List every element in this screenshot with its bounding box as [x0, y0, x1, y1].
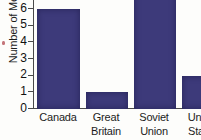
x-label-great-britain-line-1: Great: [81, 111, 131, 125]
x-label-soviet-union-line-2: Union: [130, 125, 178, 139]
y-tick-mark-0: [28, 108, 33, 109]
y-tick-mark-2: [28, 75, 33, 76]
bar-series: [34, 0, 201, 109]
y-tick-label-3: 3: [13, 52, 27, 64]
y-axis-tick-labels: 6 5 4 3 2 1 0: [13, 0, 27, 109]
x-label-soviet-union-line-1: Soviet: [130, 111, 178, 125]
y-tick-label-0: 0: [13, 102, 27, 114]
x-label-canada-line-1: Canada: [31, 111, 85, 125]
y-tick-mark-1: [28, 91, 33, 92]
x-label-soviet-union: Soviet Union: [130, 111, 178, 138]
x-axis-category-labels: Canada Great Britain Soviet Union United…: [33, 111, 201, 140]
y-tick-label-1: 1: [13, 85, 27, 97]
x-label-united-states: United States: [177, 111, 201, 138]
x-label-united-states-line-2: States: [177, 125, 201, 139]
y-tick-mark-6: [28, 8, 33, 9]
x-label-united-states-line-1: United: [177, 111, 201, 125]
x-label-great-britain: Great Britain: [81, 111, 131, 138]
scan-artifact-speck: [2, 41, 5, 45]
x-label-canada: Canada: [31, 111, 85, 125]
bar-canada: [37, 9, 80, 109]
y-tick-label-6: 6: [13, 2, 27, 14]
bar-united-states: [182, 76, 201, 109]
y-tick-label-5: 5: [13, 18, 27, 30]
y-tick-label-4: 4: [13, 35, 27, 47]
plot-area: [33, 0, 201, 109]
bar-great-britain: [86, 92, 128, 109]
bar-chart-figure: Number of Medals 6 5 4 3 2 1 0 Canada Gr: [0, 0, 201, 140]
bar-soviet-union: [134, 0, 176, 109]
y-tick-label-2: 2: [13, 68, 27, 80]
y-tick-mark-3: [28, 58, 33, 59]
y-tick-mark-4: [28, 41, 33, 42]
x-label-great-britain-line-2: Britain: [81, 125, 131, 139]
y-tick-mark-5: [28, 25, 33, 26]
